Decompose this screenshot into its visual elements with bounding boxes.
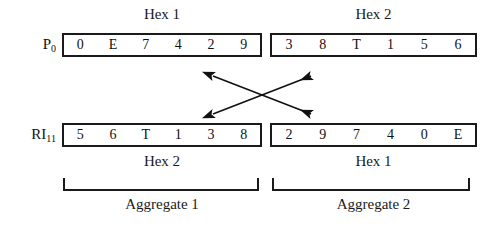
figure-canvas: Hex 1 Hex 2 P0 0 E 7 4 2 9 3 8 T 1 5 6 u…	[0, 0, 497, 232]
databox-cell: 4	[373, 128, 407, 142]
arrow-upperleft-to-lowerright	[213, 76, 311, 114]
databox-cell: 4	[162, 38, 195, 52]
databox-cell: 6	[441, 38, 475, 52]
bracket-aggregate-2	[272, 178, 470, 191]
databox-cell: E	[441, 128, 475, 142]
bracket-aggregate-1	[63, 178, 259, 191]
databox-cell: 2	[272, 128, 306, 142]
databox-ri11-hex2[interactable]: 5 6 T 1 3 8	[62, 123, 262, 147]
databox-cell: 9	[306, 128, 340, 142]
databox-cell: 1	[162, 128, 195, 142]
databox-cell: 1	[373, 38, 407, 52]
databox-p0-hex1[interactable]: 0 E 7 4 2 9	[62, 33, 262, 57]
databox-cell: E	[97, 38, 130, 52]
caption-bottom-hex-2: Hex 2	[62, 153, 262, 169]
arrow-lowerleft-to-upperright	[213, 76, 311, 114]
databox-cell: 5	[407, 38, 441, 52]
caption-top-hex-1: Hex 1	[62, 6, 262, 22]
databox-cell: 0	[64, 38, 97, 52]
databox-cell: 0	[407, 128, 441, 142]
databox-cell: 3	[195, 128, 228, 142]
databox-cell: 6	[97, 128, 130, 142]
databox-cell: 8	[306, 38, 340, 52]
databox-cell: 7	[340, 128, 374, 142]
databox-cell: 2	[195, 38, 228, 52]
databox-cell: 9	[227, 38, 260, 52]
caption-bottom-hex-1: Hex 1	[270, 153, 477, 169]
row-label-ri11-sub: 11	[46, 133, 56, 144]
row-label-ri11: RI11	[2, 126, 56, 142]
databox-cell: T	[129, 128, 162, 142]
databox-cell: T	[340, 38, 374, 52]
row-label-p0-sub: 0	[51, 43, 56, 54]
databox-cell: 3	[272, 38, 306, 52]
row-label-p0: P0	[6, 36, 56, 52]
databox-cell: 5	[64, 128, 97, 142]
caption-top-hex-2: Hex 2	[270, 6, 477, 22]
row-label-ri11-main: RI	[31, 126, 46, 142]
databox-cell: 8	[227, 128, 260, 142]
row-label-p0-main: P	[43, 36, 51, 52]
databox-p0-hex2[interactable]: 3 8 T 1 5 6	[270, 33, 477, 57]
label-aggregate-1: Aggregate 1	[62, 196, 262, 212]
databox-ri11-hex1[interactable]: 2 9 7 4 0 E	[270, 123, 477, 147]
label-aggregate-2: Aggregate 2	[270, 196, 477, 212]
databox-cell: 7	[129, 38, 162, 52]
